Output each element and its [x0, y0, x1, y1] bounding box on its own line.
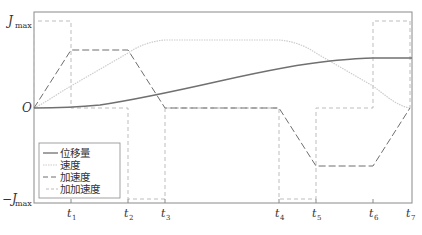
- x-tick-t3: t 3: [161, 207, 170, 222]
- svg-text:位移量: 位移量: [60, 147, 91, 159]
- s-curve-motion-chart: J max O −J max t 1 t 2 t 3 t 4 t 5 t 6: [0, 0, 422, 235]
- y-tick-neg-jmax: −J max: [2, 192, 32, 208]
- y-tick-origin: O: [22, 101, 32, 115]
- x-tick-t5: t 5: [312, 207, 321, 222]
- svg-text:max: max: [15, 199, 32, 208]
- series-velocity: [34, 40, 410, 108]
- x-tick-t2: t 2: [124, 207, 133, 222]
- svg-text:max: max: [15, 21, 32, 30]
- x-tick-t6: t 6: [369, 207, 379, 222]
- svg-text:加加速度: 加加速度: [60, 183, 101, 195]
- y-tick-jmax: J max: [5, 14, 32, 30]
- svg-text:加速度: 加速度: [60, 171, 91, 183]
- svg-text:速度: 速度: [60, 159, 81, 171]
- svg-text:6: 6: [374, 214, 379, 222]
- x-tick-t1: t 1: [67, 207, 76, 222]
- svg-text:O: O: [22, 101, 32, 115]
- svg-text:J: J: [5, 14, 14, 28]
- x-tick-t7: t 7: [406, 207, 415, 222]
- svg-text:3: 3: [166, 214, 170, 222]
- svg-text:2: 2: [129, 214, 133, 222]
- svg-text:1: 1: [72, 214, 76, 222]
- x-ticks: [71, 199, 373, 203]
- svg-text:5: 5: [317, 214, 321, 222]
- legend: 位移量 速度 加速度 加加速度: [39, 143, 120, 198]
- x-tick-t4: t 4: [275, 207, 285, 222]
- svg-text:4: 4: [280, 214, 285, 222]
- svg-text:7: 7: [411, 214, 415, 222]
- series-displacement: [34, 58, 412, 108]
